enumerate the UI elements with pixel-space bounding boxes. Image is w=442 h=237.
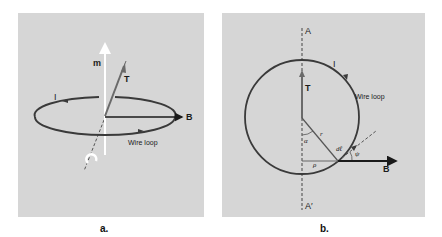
- label-axis-a: A: [305, 27, 311, 36]
- label-alpha: α: [304, 138, 308, 145]
- label-radius-r: r: [320, 131, 323, 138]
- label-axis-a-prime: A′: [305, 202, 313, 211]
- label-wire-loop: Wire loop: [355, 93, 385, 100]
- label-rho: ρ: [313, 162, 316, 169]
- figure-canvas: [0, 0, 442, 237]
- label-b-field: B: [186, 113, 193, 122]
- label-current: I: [54, 93, 57, 102]
- label-torque: T: [305, 84, 311, 93]
- label-b-field: B: [383, 165, 390, 174]
- label-m: m: [93, 59, 101, 68]
- label-current: I: [333, 60, 336, 69]
- panel-b-background: [222, 13, 425, 217]
- label-dl: dℓ: [336, 146, 342, 153]
- label-psi: ψ: [355, 151, 359, 158]
- label-torque: T: [124, 75, 130, 84]
- caption-b: b.: [320, 223, 329, 234]
- label-wire-loop: Wire loop: [128, 139, 158, 146]
- caption-a: a.: [100, 223, 108, 234]
